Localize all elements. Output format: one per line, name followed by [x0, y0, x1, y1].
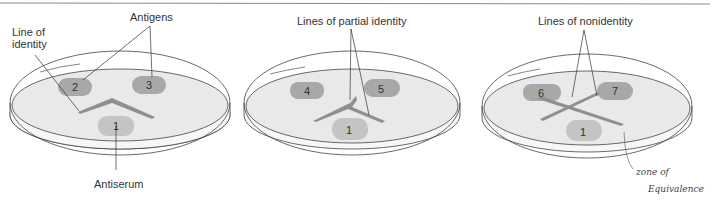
label-identity: identity: [12, 38, 47, 50]
well-label-2: 2: [72, 81, 78, 93]
label-line-of: Line of: [12, 26, 46, 38]
label-lines-of-nonidentity: Lines of nonidentity: [538, 15, 633, 27]
immunodiffusion-diagram: 2 3 1 Antigens Line of identity Antiseru…: [0, 0, 722, 201]
well-label-6: 6: [538, 87, 544, 99]
label-antiserum: Antiserum: [94, 178, 144, 190]
well-label-7: 7: [612, 85, 618, 97]
top-rule: [0, 3, 710, 4]
panel-nonidentity: 6 7 1 Lines of nonidentity zone of Equiv…: [482, 15, 704, 194]
well-label-5: 5: [378, 83, 384, 95]
well-label-1: 1: [346, 124, 352, 136]
handwritten-equivalence: Equivalence: [647, 184, 704, 194]
well-label-3: 3: [146, 79, 152, 91]
handwritten-zone-of: zone of: [635, 167, 671, 177]
panel-partial-identity: 4 5 1 Lines of partial identity: [244, 15, 460, 155]
label-lines-of-partial-identity: Lines of partial identity: [297, 15, 407, 27]
well-label-4: 4: [304, 85, 310, 97]
label-antigens: Antigens: [130, 11, 173, 23]
well-label-1: 1: [580, 126, 586, 138]
panel-line-of-identity: 2 3 1 Antigens Line of identity Antiseru…: [10, 11, 230, 190]
